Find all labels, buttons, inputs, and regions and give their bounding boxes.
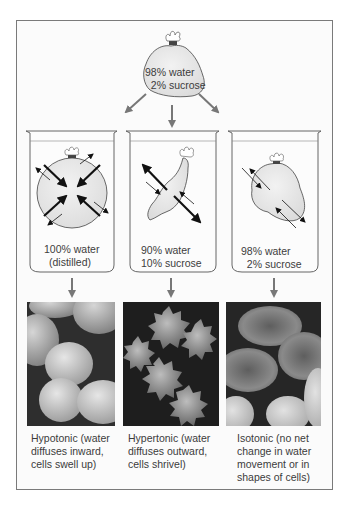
caption-hypotonic: Hypotonic (water diffuses inward, cells … bbox=[31, 432, 110, 471]
caption-isotonic: Isotonic (no net change in water movemen… bbox=[237, 432, 311, 484]
photo-shriveled-cells bbox=[123, 302, 219, 426]
photo-swollen-cells bbox=[27, 302, 115, 426]
beaker-2-label-line1: 90% water bbox=[141, 244, 191, 256]
arrow-to-isotonic bbox=[199, 94, 218, 112]
beaker-1-label-line1: 100% water bbox=[44, 243, 99, 255]
beaker-1-label-line2: (distilled) bbox=[49, 256, 91, 268]
beaker-2-label-line2: 10% sucrose bbox=[141, 257, 202, 269]
caption-hypertonic: Hypertonic (water diffuses outward, cell… bbox=[128, 432, 210, 471]
photo-normal-cells bbox=[226, 302, 321, 426]
top-bag-label-sucrose: 2% sucrose bbox=[145, 79, 206, 91]
top-bag-label-water: 98% water bbox=[145, 66, 195, 78]
arrow-to-hypotonic bbox=[126, 94, 146, 112]
beaker-3-label-line2: 2% sucrose bbox=[241, 258, 302, 270]
beaker-3-label-line1: 98% water bbox=[241, 245, 291, 257]
